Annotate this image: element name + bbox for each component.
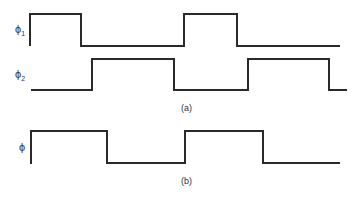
phi-label: ϕ bbox=[19, 141, 25, 153]
phi-waveform bbox=[31, 131, 340, 164]
caption-a: (a) bbox=[181, 103, 192, 113]
phi2-waveform bbox=[31, 59, 347, 90]
phi1-label: ϕ1 bbox=[15, 23, 25, 37]
timing-diagram bbox=[0, 0, 360, 198]
caption-b: (b) bbox=[181, 176, 192, 186]
phi1-waveform bbox=[30, 14, 340, 46]
phi2-label: ϕ2 bbox=[15, 68, 25, 82]
